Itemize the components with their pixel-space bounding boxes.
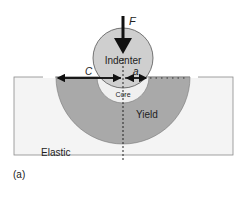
core-label: Core xyxy=(115,91,130,98)
a-dimension-label: a xyxy=(133,66,139,77)
yield-label: Yield xyxy=(136,109,158,120)
panel-label: (a) xyxy=(13,169,25,180)
indenter-label: Indenter xyxy=(105,55,142,66)
elastic-label: Elastic xyxy=(41,147,70,158)
force-label: F xyxy=(129,15,137,27)
c-dimension-label: C xyxy=(85,66,93,77)
indentation-diagram: F Indenter C a Core Yield Elastic (a) xyxy=(0,0,245,200)
